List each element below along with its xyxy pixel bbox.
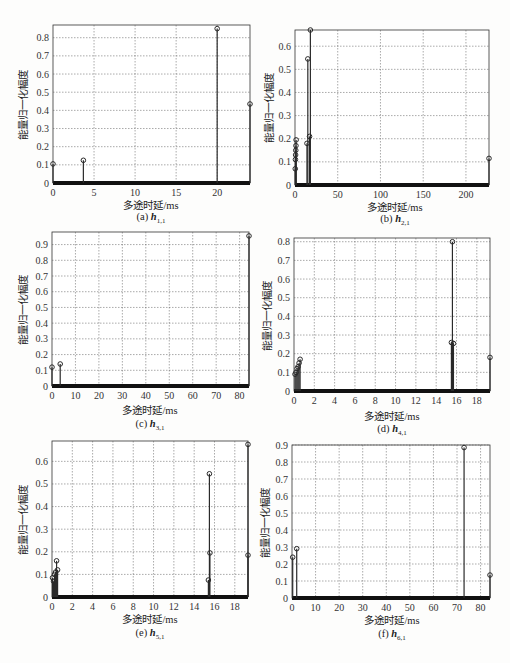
y-tick-label: 0.5: [276, 508, 289, 519]
caption-subscript: 6,1: [397, 634, 406, 642]
y-axis-label-f: 能量归一化幅度: [257, 473, 272, 573]
x-tick-label: 10: [311, 602, 321, 613]
y-tick-label: 0.4: [276, 525, 289, 536]
y-tick-label: 0.9: [276, 440, 289, 451]
x-tick-label: 80: [476, 602, 486, 613]
y-tick-label: 0.2: [276, 559, 289, 570]
y-tick-label: 0.6: [276, 491, 289, 502]
x-axis-label-f: 多途时延/ms: [342, 612, 442, 627]
stem-plot-f: 0102030405060708000.10.20.30.40.50.60.70…: [0, 0, 510, 663]
y-tick-label: 0.7: [276, 474, 289, 485]
caption-label: (f): [378, 628, 389, 639]
subplot-f: 0102030405060708000.10.20.30.40.50.60.70…: [0, 0, 510, 663]
axes: 0102030405060708000.10.20.30.40.50.60.70…: [276, 440, 491, 614]
y-tick-label: 0.1: [276, 576, 289, 587]
x-tick-label: 0: [290, 602, 295, 613]
x-tick-label: 70: [452, 602, 462, 613]
y-tick-label: 0.8: [276, 457, 289, 468]
y-tick-label: 0: [283, 593, 288, 604]
y-tick-label: 0.3: [276, 542, 289, 553]
caption-f: (f) h6,1: [342, 628, 442, 642]
